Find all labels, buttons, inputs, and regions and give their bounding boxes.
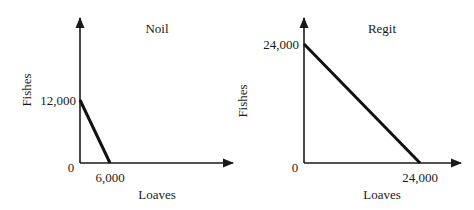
x-tick-label: 6,000 xyxy=(95,170,124,185)
y-axis-label: Fishes xyxy=(235,84,250,117)
x-tick-label: 24,000 xyxy=(402,170,438,185)
origin-label: 0 xyxy=(68,160,75,175)
chart-noil: Noil 12,000 0 6,000 Loaves Fishes xyxy=(19,18,233,202)
ppf-figure: Noil 12,000 0 6,000 Loaves Fishes Regit … xyxy=(0,0,474,210)
x-axis-label: Loaves xyxy=(363,187,401,202)
ppf-line xyxy=(80,100,110,163)
chart-title: Noil xyxy=(145,21,169,36)
origin-label: 0 xyxy=(292,160,299,175)
chart-regit: Regit 24,000 0 24,000 Loaves Fishes xyxy=(235,18,461,202)
y-axis-label: Fishes xyxy=(19,73,34,106)
chart-title: Regit xyxy=(368,21,397,36)
ppf-line xyxy=(304,44,420,163)
y-tick-label: 12,000 xyxy=(40,93,76,108)
x-axis-label: Loaves xyxy=(138,187,176,202)
y-tick-label: 24,000 xyxy=(263,37,299,52)
